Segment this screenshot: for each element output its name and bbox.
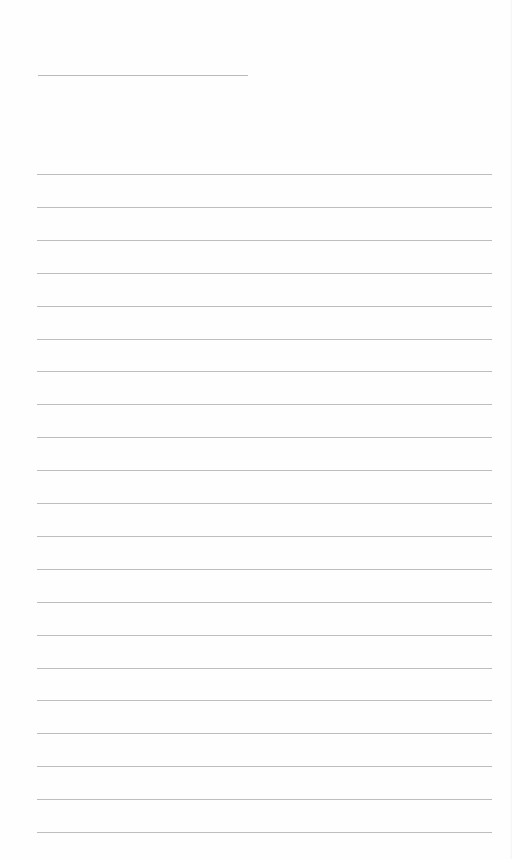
ruled-line [37,207,492,208]
ruled-line [37,766,492,767]
ruled-line [37,174,492,175]
ruled-line [37,799,492,800]
ruled-line [37,470,492,471]
ruled-page [0,0,512,859]
ruled-line [37,437,492,438]
ruled-line [37,733,492,734]
ruled-line [37,306,492,307]
ruled-line [37,536,492,537]
ruled-line [37,668,492,669]
ruled-line [37,339,492,340]
ruled-line [37,569,492,570]
ruled-line [37,700,492,701]
ruled-line [37,832,492,833]
ruled-line [37,273,492,274]
title-line [38,75,248,76]
ruled-line [37,240,492,241]
ruled-line [37,602,492,603]
ruled-line [37,635,492,636]
ruled-line [37,404,492,405]
ruled-line [37,371,492,372]
ruled-line [37,503,492,504]
